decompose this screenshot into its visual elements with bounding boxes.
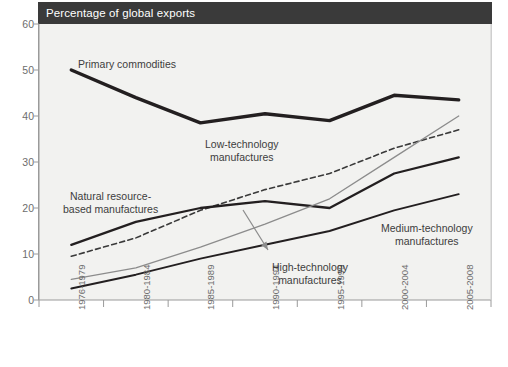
natural-resource-label-line2: based manufactures [63,203,158,216]
x-axis-tick-1985-1989: 1985-1989 [205,265,216,310]
x-axis-tick-1976-1979: 1976-1979 [76,265,87,310]
series-line-0 [71,70,458,123]
high-technology-label-line1: High-technology [272,261,348,274]
medium-technology-label: Medium-technologymanufactures [381,222,473,247]
primary-commodities-label: Primary commodities [78,58,176,71]
medium-technology-label-line1: Medium-technology [381,222,473,235]
low-technology-label-line1: Low-technology [205,138,279,151]
x-axis-tick-1980-1984: 1980-1984 [141,265,152,310]
natural-resource-label-line1: Natural resource- [63,190,158,203]
x-axis-tick-2005-2008: 2005-2008 [464,265,475,310]
chart-plot-svg [0,0,508,367]
low-technology-label-line2: manufactures [205,151,279,164]
low-technology-label: Low-technologymanufactures [205,138,279,163]
high-technology-label-line2: manufactures [272,274,348,287]
natural-resource-label: Natural resource-based manufactures [63,190,158,215]
high-technology-label: High-technologymanufactures [272,261,348,286]
x-axis-tick-2000-2004: 2000-2004 [399,265,410,310]
medium-technology-label-line2: manufactures [381,235,473,248]
chart-container: Percentage of global exports 01020304050… [0,0,508,367]
